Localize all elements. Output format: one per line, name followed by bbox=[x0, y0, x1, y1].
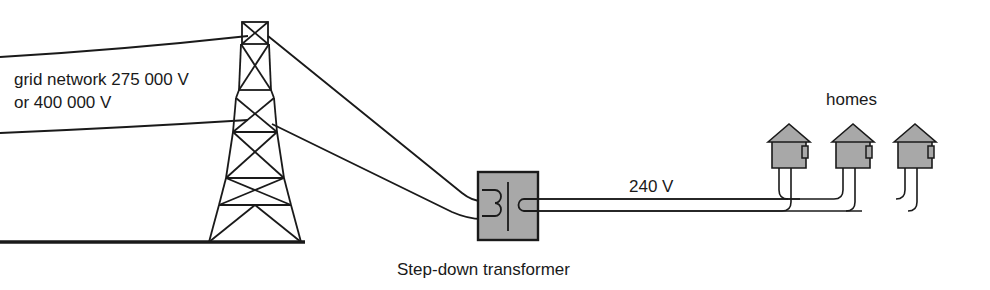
low-voltage-label: 240 V bbox=[629, 177, 674, 196]
house-3 bbox=[894, 124, 936, 211]
house-3-drop-lower bbox=[908, 168, 917, 211]
house-3-drop-upper bbox=[896, 168, 905, 199]
house-1-chimney bbox=[802, 146, 808, 158]
pylon-brace-u2b bbox=[233, 98, 274, 132]
pylon-leg-l-left bbox=[219, 178, 226, 205]
low-voltage-lines bbox=[538, 199, 862, 211]
house-3-chimney bbox=[928, 146, 934, 158]
pylon-leg-upper-right bbox=[269, 44, 271, 90]
house-2-drop-upper bbox=[538, 168, 843, 199]
pylon-leg-u2l bbox=[236, 90, 239, 98]
pylon-brace-l-a bbox=[226, 178, 291, 205]
step-down-transformer bbox=[478, 172, 538, 240]
house-1-roof bbox=[768, 124, 810, 142]
pylon-leg-u2r bbox=[271, 90, 274, 98]
hv-line-lower bbox=[272, 124, 482, 219]
pylon-brace-m-b bbox=[226, 132, 277, 178]
pylon-base-brace-a bbox=[209, 205, 255, 242]
transformer-caption: Step-down transformer bbox=[397, 260, 570, 279]
house-1 bbox=[538, 124, 810, 211]
house-2-roof bbox=[832, 124, 874, 142]
high-voltage-lines bbox=[268, 36, 482, 219]
pylon-brace-u2a bbox=[236, 98, 277, 132]
grid-line-lower bbox=[0, 120, 248, 133]
house-2-body bbox=[836, 140, 870, 168]
house-1-drop-upper bbox=[779, 168, 788, 199]
pylon-leg-upper-left bbox=[239, 44, 241, 90]
grid-line-upper bbox=[0, 36, 248, 57]
house-2 bbox=[538, 124, 874, 211]
pylon-brace-u1a bbox=[241, 44, 271, 90]
homes-label: homes bbox=[826, 90, 877, 109]
house-2-chimney bbox=[866, 146, 872, 158]
house-2-drop-lower bbox=[846, 168, 855, 211]
pylon-base-brace-b bbox=[255, 205, 301, 242]
pylon-brace-u1b bbox=[239, 44, 269, 90]
pylon-base-leg-left bbox=[209, 205, 219, 242]
pylon-brace-m-a bbox=[233, 132, 284, 178]
power-distribution-diagram: grid network 275 000 V or 400 000 V 240 … bbox=[0, 0, 990, 290]
grid-network-label-line2: or 400 000 V bbox=[14, 93, 112, 112]
pylon-leg-u3l bbox=[233, 98, 236, 132]
house-1-body bbox=[772, 140, 806, 168]
house-3-body bbox=[898, 140, 932, 168]
pylon-base-leg-right bbox=[291, 205, 301, 242]
pylon-brace-l-b bbox=[219, 178, 284, 205]
diagram-root: grid network 275 000 V or 400 000 V 240 … bbox=[0, 0, 990, 290]
house-3-roof bbox=[894, 124, 936, 142]
pylon-leg-m-left bbox=[226, 132, 233, 178]
pylon-leg-m-right bbox=[277, 132, 284, 178]
hv-line-upper bbox=[268, 36, 482, 201]
grid-network-label-line1: grid network 275 000 V bbox=[14, 70, 189, 89]
pylon-leg-l-right bbox=[284, 178, 291, 205]
